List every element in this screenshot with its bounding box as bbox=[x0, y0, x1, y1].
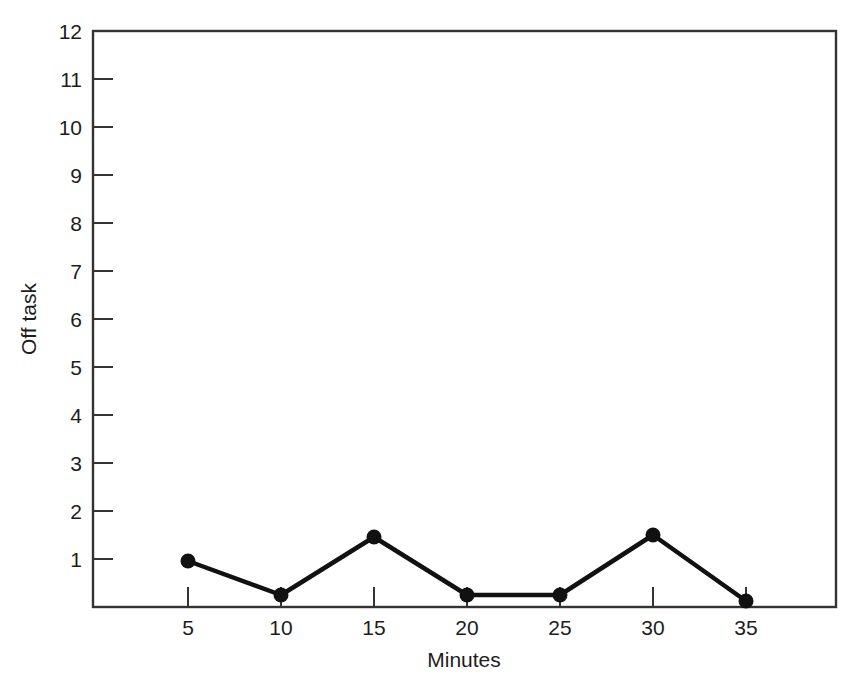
y-axis-title: Off task bbox=[17, 283, 40, 355]
chart-figure: 12 11 10 9 8 7 6 5 4 3 2 1 5 10 15 bbox=[0, 0, 855, 689]
x-tick-label: 35 bbox=[734, 616, 757, 639]
x-axis-title: Minutes bbox=[427, 648, 501, 671]
data-point bbox=[367, 530, 382, 545]
y-tick-label: 10 bbox=[59, 116, 82, 139]
plot-background bbox=[93, 31, 836, 607]
y-tick-label: 4 bbox=[70, 404, 82, 427]
data-point bbox=[553, 588, 568, 603]
y-tick-label: 12 bbox=[59, 20, 82, 43]
y-axis-tick-labels: 12 11 10 9 8 7 6 5 4 3 2 1 bbox=[59, 20, 83, 571]
data-point bbox=[274, 588, 289, 603]
y-tick-label: 9 bbox=[70, 164, 82, 187]
line-chart: 12 11 10 9 8 7 6 5 4 3 2 1 5 10 15 bbox=[0, 0, 855, 689]
data-point bbox=[460, 588, 475, 603]
y-tick-label: 7 bbox=[70, 260, 82, 283]
y-tick-label: 2 bbox=[70, 500, 82, 523]
y-tick-label: 6 bbox=[70, 308, 82, 331]
data-point bbox=[181, 554, 196, 569]
x-tick-label: 15 bbox=[362, 616, 385, 639]
y-tick-label: 11 bbox=[60, 68, 82, 91]
y-tick-label: 1 bbox=[70, 548, 82, 571]
x-tick-label: 5 bbox=[182, 616, 194, 639]
y-tick-label: 5 bbox=[70, 356, 82, 379]
data-point bbox=[739, 594, 754, 609]
y-tick-label: 8 bbox=[70, 212, 82, 235]
data-point bbox=[646, 528, 661, 543]
x-tick-label: 30 bbox=[641, 616, 664, 639]
x-tick-label: 10 bbox=[269, 616, 292, 639]
x-tick-label: 25 bbox=[548, 616, 571, 639]
x-tick-label: 20 bbox=[455, 616, 478, 639]
x-axis-tick-labels: 5 10 15 20 25 30 35 bbox=[182, 616, 758, 639]
y-tick-label: 3 bbox=[70, 452, 82, 475]
